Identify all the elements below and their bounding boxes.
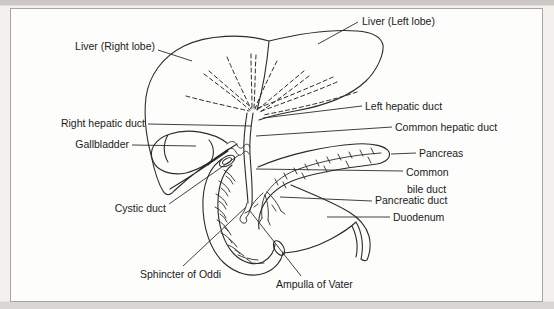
label-duodenum: Duodenum: [393, 211, 445, 223]
label-gallbladder: Gallbladder: [75, 138, 129, 150]
label-common-bile-duct-line1: Common: [406, 166, 449, 178]
label-pancreatic-duct: Pancreatic duct: [375, 194, 447, 206]
scan-band-bottom: [0, 302, 554, 309]
scan-band-top: [0, 0, 554, 6]
label-liver-right-lobe: Liver (Right lobe): [75, 40, 155, 52]
anatomy-figure: Liver (Right lobe) Liver (Left lobe) Rig…: [0, 0, 554, 309]
label-right-hepatic-duct: Right hepatic duct: [61, 117, 145, 129]
figure-page: Liver (Right lobe) Liver (Left lobe) Rig…: [0, 0, 554, 309]
label-ampulla-of-vater: Ampulla of Vater: [276, 278, 353, 290]
label-liver-left-lobe: Liver (Left lobe): [362, 15, 435, 27]
label-left-hepatic-duct: Left hepatic duct: [365, 100, 442, 112]
label-pancreas: Pancreas: [419, 147, 463, 159]
label-common-hepatic-duct: Common hepatic duct: [395, 121, 497, 133]
label-cystic-duct: Cystic duct: [115, 202, 166, 214]
label-sphincter-of-oddi: Sphincter of Oddi: [140, 268, 221, 280]
